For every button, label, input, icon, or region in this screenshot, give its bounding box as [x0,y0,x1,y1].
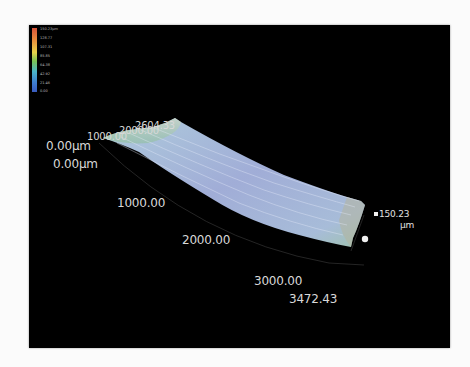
z-axis-max-marker [374,212,378,216]
z-max-label: 150.23 [379,210,409,219]
x-max-label: 3472.43 [289,293,337,305]
x-tick-2000: 2000.00 [182,234,230,246]
surface-plot [29,25,450,348]
y-max-label: 2604.33 [135,121,175,131]
z-origin-label: 0.00µm [46,140,91,152]
z-unit-label: µm [400,221,414,230]
x-tick-1000: 1000.00 [117,197,165,209]
axis-endpoint-dot [362,236,368,242]
3d-surface-viewport[interactable]: 150.23µm 128.77 107.31 85.85 64.38 42.92… [29,25,450,348]
x-tick-3000: 3000.00 [254,275,302,287]
x-origin-label: 0.00µm [53,158,98,170]
